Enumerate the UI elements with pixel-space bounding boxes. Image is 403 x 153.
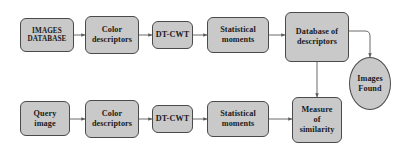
node-dtcwt-top-label: DT-CWT xyxy=(154,30,192,40)
edge-database-imagesfound xyxy=(349,31,370,57)
node-statistical-moments-top-label: Statisticalmoments xyxy=(218,25,258,44)
node-query-image-label: Queryimage xyxy=(32,109,59,128)
node-statistical-moments-top[interactable]: Statisticalmoments xyxy=(207,17,269,53)
node-color-descriptors-top-label: Colordescriptors xyxy=(90,25,134,44)
node-images-database[interactable]: IMAGESDATABASE xyxy=(20,18,74,52)
node-database-of-descriptors-label: Database ofdescriptors xyxy=(294,27,340,46)
node-dtcwt-top[interactable]: DT-CWT xyxy=(152,21,193,49)
node-query-image[interactable]: Queryimage xyxy=(20,101,70,136)
node-images-database-label: IMAGESDATABASE xyxy=(26,27,69,44)
node-measure-of-similarity[interactable]: Measureofsimilarity xyxy=(292,97,342,143)
node-statistical-moments-bottom-label: Statisticalmoments xyxy=(218,109,258,128)
node-statistical-moments-bottom[interactable]: Statisticalmoments xyxy=(207,101,269,137)
node-measure-of-similarity-label: Measureofsimilarity xyxy=(298,105,337,134)
node-images-found[interactable]: ImagesFound xyxy=(349,57,391,110)
node-dtcwt-bottom-label: DT-CWT xyxy=(154,114,192,124)
node-images-found-label: ImagesFound xyxy=(355,74,385,93)
flowchart-diagram: IMAGESDATABASE Colordescriptors DT-CWT S… xyxy=(0,0,403,153)
node-color-descriptors-bottom[interactable]: Colordescriptors xyxy=(85,100,139,138)
node-database-of-descriptors[interactable]: Database ofdescriptors xyxy=(285,12,349,62)
node-color-descriptors-bottom-label: Colordescriptors xyxy=(90,109,134,128)
node-dtcwt-bottom[interactable]: DT-CWT xyxy=(152,105,193,133)
node-color-descriptors-top[interactable]: Colordescriptors xyxy=(85,16,139,54)
